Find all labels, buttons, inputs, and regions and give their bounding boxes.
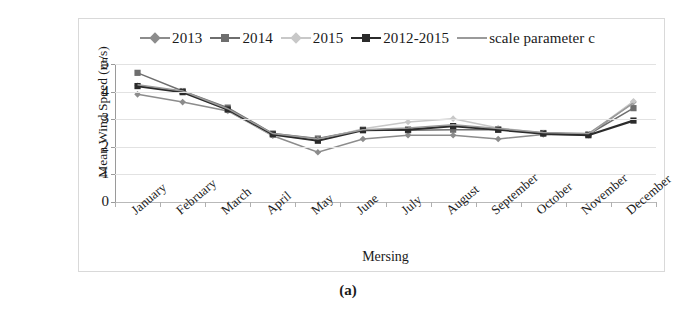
gridline-y-4 — [115, 92, 656, 93]
figure-container: 2013201420152012-2015scale parameter c M… — [0, 0, 696, 316]
y-tick-label-1: 1 — [102, 166, 110, 183]
chart-legend: 2013201420152012-2015scale parameter c — [78, 24, 665, 52]
data-point-2013-september — [495, 136, 502, 143]
legend-label: 2014 — [242, 30, 280, 47]
legend-marker — [290, 32, 301, 43]
gridline-y-5 — [115, 64, 656, 65]
data-point-2012-2015-september — [495, 127, 501, 133]
legend-item-2014[interactable]: 2014 — [210, 30, 280, 47]
data-point-2012-2015-october — [540, 130, 546, 136]
y-tick-label-3: 3 — [102, 110, 110, 127]
y-tick-label-4: 4 — [102, 83, 110, 100]
data-point-2013-february — [179, 99, 186, 106]
data-point-2013-june — [360, 136, 367, 143]
series-layer — [115, 64, 656, 202]
legend-symbol-square-icon — [351, 32, 381, 44]
legend-marker — [362, 34, 370, 42]
legend-symbol-line-icon — [457, 32, 487, 44]
legend-item-scale-parameter-c[interactable]: scale parameter c — [457, 30, 603, 47]
y-tick-label-5: 5 — [102, 55, 110, 72]
legend-item-2012-2015[interactable]: 2012-2015 — [351, 30, 457, 47]
x-tick-mark-12 — [656, 202, 657, 207]
y-tick-mark-1 — [111, 174, 115, 175]
legend-item-2015[interactable]: 2015 — [281, 30, 351, 47]
x-axis-tick-labels: JanuaryFebruaryMarchAprilMayJuneJulyAugu… — [115, 204, 656, 252]
y-tick-mark-5 — [111, 64, 115, 65]
legend-symbol-diamond-icon — [281, 32, 311, 44]
legend-symbol-square-icon — [210, 32, 240, 44]
legend-marker — [221, 34, 229, 42]
data-point-2014-december — [630, 105, 636, 111]
legend-marker — [149, 32, 160, 43]
gridline-y-3 — [115, 119, 656, 120]
data-point-2014-january — [134, 70, 140, 76]
series-line-2015 — [138, 86, 634, 140]
data-point-2012-2015-august — [450, 123, 456, 129]
y-tick-mark-2 — [111, 147, 115, 148]
legend-line — [457, 37, 487, 39]
y-tick-label-0: 0 — [102, 193, 110, 210]
y-tick-mark-4 — [111, 92, 115, 93]
data-point-2013-may — [315, 149, 322, 156]
y-tick-label-2: 2 — [102, 138, 110, 155]
gridline-y-2 — [115, 147, 656, 148]
x-axis-title: Mersing — [115, 249, 656, 265]
legend-item-2013[interactable]: 2013 — [140, 30, 210, 47]
data-point-2013-august — [450, 132, 457, 139]
legend-label: 2012-2015 — [383, 30, 457, 47]
plot-area: 012345 — [115, 64, 656, 202]
plot-area-wrapper: Mean Wind Speed (m/s) 012345 JanuaryFebr… — [78, 52, 665, 272]
y-tick-mark-3 — [111, 119, 115, 120]
data-point-2012-2015-january — [134, 83, 140, 89]
legend-label: scale parameter c — [489, 30, 603, 47]
legend-label: 2013 — [172, 30, 210, 47]
legend-label: 2015 — [313, 30, 351, 47]
figure-caption: (a) — [0, 282, 696, 299]
gridline-y-1 — [115, 174, 656, 175]
legend-symbol-diamond-icon — [140, 32, 170, 44]
